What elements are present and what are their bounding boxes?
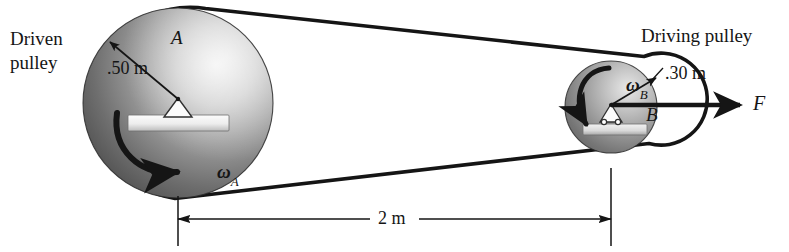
force-f-label: F	[753, 92, 765, 114]
radius-a-dimension-label: .50 m	[107, 58, 148, 78]
span-dimension-label: 2 m	[378, 208, 406, 228]
driven-pulley-label-line2: pulley	[10, 52, 58, 73]
omega-a-subscript: A	[231, 174, 239, 189]
driven-pulley-label-line1: Driven	[10, 28, 63, 49]
belt-pulley-figure: Driven pulley Driving pulley A B .50 m .…	[0, 0, 789, 252]
omega-b-label: ωB	[607, 53, 648, 121]
omega-b-subscript: B	[640, 87, 648, 102]
pulley-b-letter-label: B	[646, 104, 658, 125]
omega-a-label: ωA	[198, 140, 239, 208]
omega-b-symbol: ω	[626, 74, 640, 95]
pulley-b-base-plate	[583, 124, 647, 135]
omega-a-symbol: ω	[217, 161, 231, 182]
pulley-b-roller-left	[601, 119, 606, 124]
radius-b-dimension-label: .30 m	[665, 63, 706, 83]
driving-pulley-label: Driving pulley	[641, 25, 752, 46]
pulley-a-letter-label: A	[171, 27, 183, 48]
